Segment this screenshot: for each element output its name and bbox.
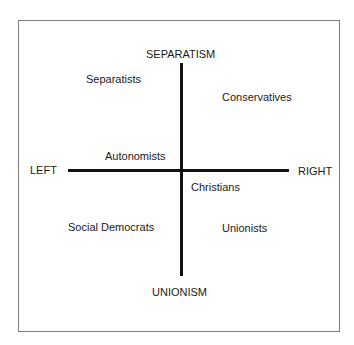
party-label: Christians	[191, 181, 240, 194]
party-label: Separatists	[86, 73, 141, 86]
axis-label-right: RIGHT	[298, 165, 332, 178]
party-label: Social Democrats	[68, 221, 154, 234]
party-label: Conservatives	[222, 91, 292, 104]
party-label: Unionists	[222, 222, 267, 235]
axis-label-top: SEPARATISM	[146, 48, 215, 61]
horizontal-axis-line	[68, 169, 289, 172]
axis-label-bottom: UNIONISM	[152, 286, 207, 299]
party-label: Autonomists	[105, 150, 166, 163]
axis-label-left: LEFT	[30, 164, 57, 177]
